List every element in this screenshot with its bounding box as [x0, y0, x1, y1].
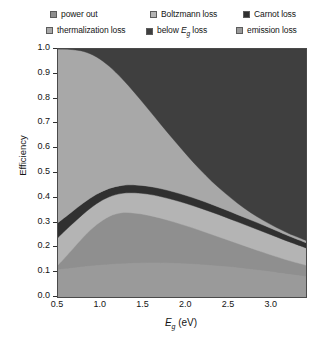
y-tick-label: 0.2 — [26, 240, 50, 250]
legend-entry-below-eg-loss[interactable]: below Eg loss — [146, 25, 207, 39]
legend-entry-carnot-loss[interactable]: Carnot loss — [243, 9, 296, 19]
legend-swatch-thermalization-loss — [46, 27, 53, 34]
x-tick-label: 2.5 — [215, 299, 241, 309]
chart-legend: power out Boltzmann loss Carnot loss the… — [46, 8, 318, 40]
legend-label-carnot-loss: Carnot loss — [254, 9, 296, 19]
legend-entry-thermalization-loss[interactable]: thermalization loss — [46, 25, 126, 35]
y-tick-label: 0.6 — [26, 141, 50, 151]
legend-entry-emission-loss[interactable]: emission loss — [236, 25, 297, 35]
y-tick-label: 0.9 — [26, 67, 50, 77]
plot-area — [57, 48, 307, 298]
legend-swatch-boltzmann-loss — [150, 11, 157, 18]
y-tick-label: 0.5 — [26, 166, 50, 176]
legend-label-boltzmann-loss: Boltzmann loss — [161, 9, 217, 19]
x-tick-label: 0.5 — [44, 299, 70, 309]
legend-entry-boltzmann-loss[interactable]: Boltzmann loss — [150, 9, 217, 19]
x-tick-label: 3.0 — [258, 299, 284, 309]
legend-row: power out Boltzmann loss Carnot loss — [46, 8, 318, 22]
legend-label-below-eg-loss: below Eg loss — [157, 25, 207, 39]
y-tick-label: 0.1 — [26, 265, 50, 275]
y-tick-label: 0.7 — [26, 116, 50, 126]
y-tick-label: 0.4 — [26, 191, 50, 201]
x-axis-label: Eg (eV) — [57, 317, 305, 330]
x-tick-label: 1.5 — [130, 299, 156, 309]
y-tick-label: 1.0 — [26, 42, 50, 52]
y-axis-label: Efficiency — [17, 111, 28, 201]
x-tick-label: 2.0 — [172, 299, 198, 309]
legend-row: thermalization loss below Eg loss emissi… — [46, 24, 318, 38]
legend-swatch-power-out — [50, 11, 57, 18]
legend-swatch-below-eg-loss — [146, 28, 153, 35]
legend-swatch-carnot-loss — [243, 11, 250, 18]
x-tick-label: 1.0 — [87, 299, 113, 309]
y-tick-label: 0.3 — [26, 216, 50, 226]
efficiency-loss-figure: power out Boltzmann loss Carnot loss the… — [0, 0, 322, 340]
y-tick-label: 0.8 — [26, 92, 50, 102]
stacked-area-chart — [58, 49, 306, 297]
legend-label-thermalization-loss: thermalization loss — [57, 25, 126, 35]
legend-label-emission-loss: emission loss — [247, 25, 297, 35]
legend-swatch-emission-loss — [236, 27, 243, 34]
legend-label-power-out: power out — [61, 9, 97, 19]
legend-entry-power-out[interactable]: power out — [50, 9, 97, 19]
